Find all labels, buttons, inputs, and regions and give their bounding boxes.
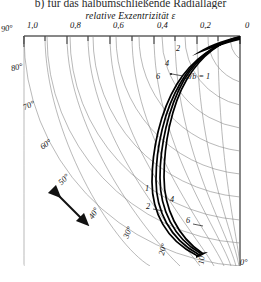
eps-tick-0-4: 0,4	[157, 20, 168, 30]
curve-label-upper-2: 2	[176, 44, 180, 53]
polar-nomogram-svg	[0, 0, 261, 282]
curve-label-upper-6: 6	[156, 72, 160, 81]
parameter-label: dₗ/b = 1	[185, 71, 210, 81]
curve-label-lower-2: 2	[146, 202, 150, 211]
figure-panel: b) für das halbumschließende Radiallager…	[0, 0, 261, 282]
direction-arrow	[56, 193, 84, 221]
angle-label-90: 90°	[0, 23, 13, 34]
curve-db-6	[164, 37, 239, 253]
angle-label-0: 0°	[240, 258, 248, 267]
angle-label-10: 10°	[197, 252, 208, 265]
eps-tick-0-2: 0,2	[200, 20, 211, 30]
curve-convergence-wedge	[192, 36, 240, 258]
curve-label-lower-1: 1	[145, 184, 149, 193]
curve-label-lower-4: 4	[170, 195, 174, 204]
eps-tick-0-6: 0,6	[113, 20, 124, 30]
eps-tick-1-0: 1,0	[27, 20, 38, 30]
curve-label-upper-4: 4	[165, 59, 169, 68]
eps-tick-0-8: 0,8	[70, 20, 81, 30]
eps-tick-0: 0	[245, 20, 249, 30]
curve-bundle	[152, 37, 239, 255]
curve-label-lower-6: 6	[186, 216, 190, 225]
parameter-leader-dot	[170, 73, 172, 75]
